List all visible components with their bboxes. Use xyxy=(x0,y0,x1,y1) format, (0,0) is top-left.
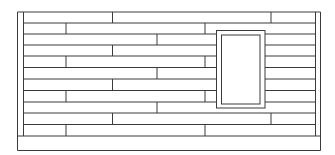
window-inner-pane xyxy=(222,35,261,104)
wall-elevation-drawing xyxy=(0,0,335,155)
wall-elevation-diagram xyxy=(0,0,335,155)
board-courses xyxy=(24,23,316,125)
window xyxy=(217,31,266,109)
wall-frame xyxy=(18,12,321,151)
